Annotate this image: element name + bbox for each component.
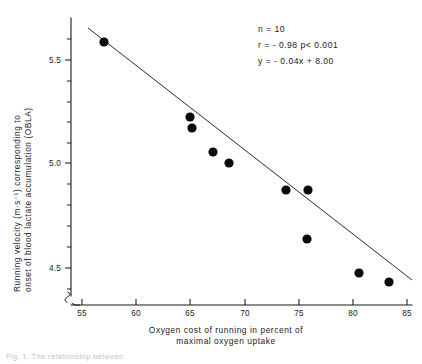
x-tick-label-80: 80	[348, 309, 358, 318]
y-axis-title: Running velocity (m·s⁻¹) corresponding t…	[12, 107, 33, 292]
scatter-plot-figure: Running velocity (m·s⁻¹) corresponding t…	[0, 0, 422, 364]
y-axis-title-line1: Running velocity (m·s⁻¹) corresponding t…	[12, 115, 22, 292]
y-axis-major-ticks	[65, 60, 71, 268]
data-point	[208, 147, 217, 156]
figure-caption-fragment: Fig. 1. The relationship between	[6, 352, 306, 363]
regression-line	[88, 28, 412, 280]
y-tick-label-5-5: 5.5	[49, 56, 61, 65]
y-axis-title-line2: onset of blood lactate accumulation (OBL…	[23, 107, 33, 292]
statistics-annotation: n = 10 r = - 0.98 p< 0.001 y = - 0.04x +…	[258, 24, 338, 66]
y-tick-label-4-5: 4.5	[49, 264, 61, 273]
data-point	[281, 185, 290, 194]
x-tick-label-85: 85	[402, 309, 412, 318]
data-point	[302, 234, 311, 243]
x-axis-title-line1: Oxygen cost of running in percent of	[149, 325, 303, 335]
y-axis-minor-ticks	[67, 39, 71, 289]
data-points	[99, 37, 393, 286]
annotation-correlation: r = - 0.98 p< 0.001	[258, 40, 338, 50]
x-tick-label-65: 65	[185, 309, 195, 318]
y-tick-label-5-0: 5.0	[49, 159, 61, 168]
data-point	[354, 268, 363, 277]
data-point	[384, 277, 393, 286]
x-tick-label-60: 60	[131, 309, 141, 318]
chart-canvas: Running velocity (m·s⁻¹) corresponding t…	[0, 0, 422, 364]
x-tick-label-70: 70	[240, 309, 250, 318]
data-point	[224, 158, 233, 167]
annotation-sample-size: n = 10	[258, 24, 285, 34]
data-point	[187, 123, 196, 132]
x-axis-title: Oxygen cost of running in percent of max…	[149, 325, 303, 346]
annotation-equation: y = - 0.04x + 8.00	[258, 56, 334, 66]
x-axis-tick-labels: 55 60 65 70 75 80 85	[77, 309, 412, 318]
data-point	[303, 185, 312, 194]
x-tick-label-55: 55	[77, 309, 87, 318]
axis-break-symbol	[65, 292, 80, 305]
data-point	[185, 112, 194, 121]
x-axis-title-line2: maximal oxygen uptake	[176, 336, 276, 346]
x-tick-label-75: 75	[294, 309, 304, 318]
x-axis-major-ticks	[82, 299, 407, 305]
y-axis-tick-labels: 5.5 5.0 4.5	[49, 56, 61, 273]
data-point	[99, 37, 108, 46]
